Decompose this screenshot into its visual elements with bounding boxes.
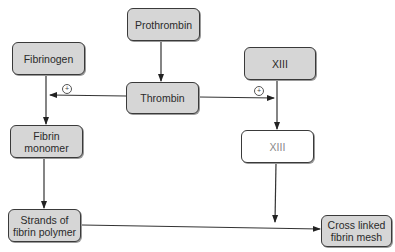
node-label: Strands of fibrin polymer [13,214,76,238]
node-label: XIII [272,58,288,70]
node-label: Prothrombin [135,19,192,31]
node-xiii: XIII [244,47,316,80]
node-label: Thrombin [140,92,184,104]
node-cross-linked-fibrin-mesh: Cross linked fibrin mesh [321,215,392,247]
activation-plus-right: + [254,86,264,96]
node-strands-fibrin-polymer: Strands of fibrin polymer [8,209,81,242]
node-prothrombin: Prothrombin [127,8,200,41]
node-fibrin-monomer: Fibrin monomer [10,125,83,158]
activation-plus-left: + [62,84,72,94]
node-label: Fibrin monomer [24,130,68,154]
node-thrombin: Thrombin [126,82,199,114]
node-fibrinogen: Fibrinogen [12,42,85,75]
node-label: XIII [270,141,286,153]
node-label: Cross linked fibrin mesh [328,219,386,243]
node-xiii-active: XIII [241,130,314,163]
node-label: Fibrinogen [24,53,74,65]
